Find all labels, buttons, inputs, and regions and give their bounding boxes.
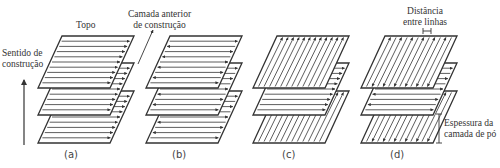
previous-layer-pointer bbox=[138, 30, 153, 64]
build-direction-label: Sentido de construção bbox=[2, 48, 43, 70]
layer-thickness-label-line1: Espessura da bbox=[444, 118, 496, 129]
top-label: Topo bbox=[76, 20, 95, 31]
panel-d bbox=[361, 36, 457, 143]
hatch-distance-label: Distância entre linhas bbox=[403, 6, 447, 28]
previous-layer-label-line2: de construção bbox=[128, 20, 191, 31]
layers-group bbox=[38, 36, 457, 143]
caption-a: (a) bbox=[64, 149, 78, 160]
caption-b: (b) bbox=[172, 149, 186, 160]
layer-thickness-label-line2: camada de pó bbox=[444, 129, 496, 140]
caption-d: (d) bbox=[390, 149, 404, 160]
panel-b bbox=[146, 36, 242, 143]
build-direction-label-line1: Sentido de bbox=[2, 48, 43, 59]
panel-c bbox=[253, 36, 349, 143]
hatch-distance-dimension bbox=[423, 28, 431, 34]
caption-c: (c) bbox=[282, 149, 295, 160]
hatch-distance-label-line2: entre linhas bbox=[403, 17, 447, 28]
panel-a bbox=[38, 36, 134, 143]
build-direction-label-line2: construção bbox=[2, 59, 43, 70]
previous-layer-label: Camada anterior de construção bbox=[128, 9, 191, 31]
hatch-distance-label-line1: Distância bbox=[403, 6, 447, 17]
layer-thickness-label: Espessura da camada de pó bbox=[444, 118, 496, 140]
previous-layer-label-line1: Camada anterior bbox=[128, 9, 191, 20]
